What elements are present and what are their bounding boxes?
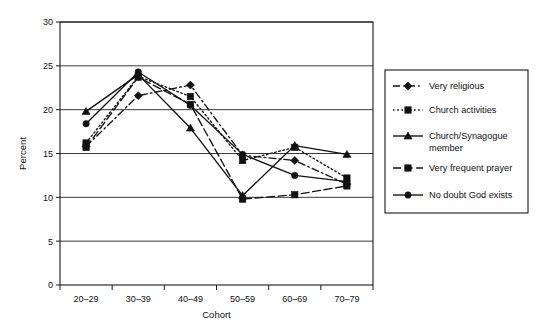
series-very-frequent-prayer bbox=[83, 74, 350, 202]
y-axis-title: Percent bbox=[17, 137, 28, 170]
y-tick-label-20: 20 bbox=[43, 105, 53, 115]
marker-church-activities-legend bbox=[405, 107, 411, 113]
marker-no-doubt-god-exists-4 bbox=[292, 172, 298, 178]
legend: Very religiousChurch activitiesChurch/Sy… bbox=[385, 70, 528, 213]
series-group bbox=[82, 69, 351, 203]
x-axis: 20–2930–3940–4950–5960–6970–79 bbox=[60, 285, 373, 304]
y-tick-label-15: 15 bbox=[43, 149, 53, 159]
x-tick-label-5: 70–79 bbox=[334, 294, 359, 304]
x-tick-label-1: 30–39 bbox=[126, 294, 151, 304]
x-tick-label-3: 50–59 bbox=[230, 294, 255, 304]
x-tick-label-4: 60–69 bbox=[282, 294, 307, 304]
x-tick-label-2: 40–49 bbox=[178, 294, 203, 304]
legend-label-4: Very frequent prayer bbox=[429, 163, 512, 173]
chart-container: 05101520253020–2930–3940–4950–5960–6970–… bbox=[0, 0, 553, 333]
y-tick-label-10: 10 bbox=[43, 193, 53, 203]
line-chart: 05101520253020–2930–3940–4950–5960–6970–… bbox=[0, 0, 553, 333]
marker-church-activities-3 bbox=[239, 157, 245, 163]
marker-church-synagogue-member-0 bbox=[82, 107, 90, 114]
y-tick-label-5: 5 bbox=[48, 237, 53, 247]
legend-item-3[interactable]: member bbox=[429, 143, 463, 153]
series-line-no-doubt-god-exists bbox=[86, 72, 347, 182]
series-church-synagogue-member bbox=[82, 71, 351, 199]
y-gridlines: 051015202530 bbox=[43, 17, 373, 290]
legend-label-2: Church/Synagogue bbox=[429, 131, 508, 141]
marker-very-frequent-prayer-4 bbox=[292, 192, 298, 198]
marker-very-religious-1 bbox=[134, 92, 142, 100]
legend-label-5: No doubt God exists bbox=[429, 190, 513, 200]
marker-no-doubt-god-exists-5 bbox=[344, 178, 350, 184]
y-tick-label-0: 0 bbox=[48, 280, 53, 290]
series-church-activities bbox=[83, 73, 350, 181]
marker-very-frequent-prayer-0 bbox=[83, 144, 89, 150]
series-line-very-frequent-prayer bbox=[86, 77, 347, 199]
marker-no-doubt-god-exists-legend bbox=[405, 192, 411, 198]
y-tick-label-30: 30 bbox=[43, 17, 53, 27]
marker-church-activities-2 bbox=[187, 93, 193, 99]
marker-no-doubt-god-exists-3 bbox=[239, 151, 245, 157]
legend-label-3: member bbox=[429, 143, 463, 153]
y-tick-label-25: 25 bbox=[43, 61, 53, 71]
marker-very-religious-4 bbox=[291, 157, 299, 165]
x-axis-title: Cohort bbox=[202, 309, 231, 320]
legend-label-1: Church activities bbox=[429, 105, 497, 115]
legend-label-0: Very religious bbox=[429, 81, 485, 91]
marker-no-doubt-god-exists-1 bbox=[135, 69, 141, 75]
marker-no-doubt-god-exists-2 bbox=[187, 102, 193, 108]
marker-no-doubt-god-exists-0 bbox=[83, 120, 89, 126]
marker-very-frequent-prayer-3 bbox=[239, 196, 245, 202]
x-tick-label-0: 20–29 bbox=[74, 294, 99, 304]
marker-very-frequent-prayer-legend bbox=[405, 165, 411, 171]
series-line-very-religious bbox=[86, 85, 347, 184]
